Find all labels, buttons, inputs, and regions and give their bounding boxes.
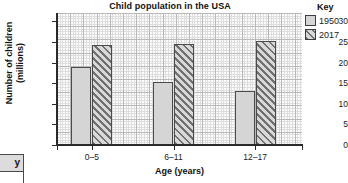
y-tick xyxy=(52,21,57,22)
x-tick xyxy=(255,145,256,150)
y-tick xyxy=(52,83,57,84)
y-axis-title-line1: Number of children xyxy=(4,1,15,125)
x-axis-line xyxy=(56,144,303,146)
chart-figure: Child population in the USA 051015202530… xyxy=(0,0,348,183)
y-tick xyxy=(52,104,57,105)
y-axis-line xyxy=(56,13,58,146)
bar-2017-6–11 xyxy=(174,44,194,145)
legend-label-2017: 2017 xyxy=(319,30,339,40)
x-axis-title: Age (years) xyxy=(57,166,302,176)
legend-item-2017: 2017 xyxy=(305,29,348,40)
y-axis-title: Number of children (millions) xyxy=(4,1,26,125)
y-axis-title-line2: (millions) xyxy=(15,1,26,125)
y-tick-label: 10 xyxy=(302,99,348,109)
y-tick-label: 20 xyxy=(302,58,348,68)
bar-2017-0–5 xyxy=(92,45,112,145)
legend-label-1950: 1950 xyxy=(319,16,339,26)
bars-layer xyxy=(57,13,302,145)
bar-1950-0–5 xyxy=(71,67,91,145)
x-tick-label: 12–17 xyxy=(225,152,285,162)
legend-swatch-1950-icon xyxy=(305,15,316,26)
x-tick-label: 0–5 xyxy=(62,152,122,162)
x-axis-end-tick xyxy=(57,145,58,150)
chart-title: Child population in the USA xyxy=(55,1,285,11)
legend: Key 1950 2017 xyxy=(305,2,348,40)
legend-title: Key xyxy=(317,2,348,12)
x-tick xyxy=(174,145,175,150)
y-tick-label: 5 xyxy=(302,119,348,129)
bar-1950-12–17 xyxy=(235,91,255,145)
y-tick-label: 15 xyxy=(302,78,348,88)
y-tick-label: 0 xyxy=(302,140,348,150)
y-tick xyxy=(52,63,57,64)
cropped-key-box: y xyxy=(0,154,24,172)
bar-2017-12–17 xyxy=(256,41,276,145)
x-tick xyxy=(92,145,93,150)
legend-item-1950: 1950 xyxy=(305,15,348,26)
legend-swatch-2017-icon xyxy=(305,29,316,40)
plot-area xyxy=(57,13,302,145)
cropped-key-box-stem xyxy=(23,171,24,183)
y-tick xyxy=(52,124,57,125)
x-axis-end-tick xyxy=(302,145,303,150)
y-tick xyxy=(52,42,57,43)
bar-1950-6–11 xyxy=(153,82,173,145)
x-tick-label: 6–11 xyxy=(144,152,204,162)
